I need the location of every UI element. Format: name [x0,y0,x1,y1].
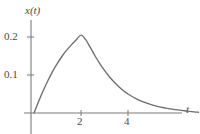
response-curve [34,35,199,113]
impulse-response-figure: x(t) t 0.2 0.1 2 4 [0,0,200,134]
y-tick-label-lower: 0.1 [4,69,18,80]
y-axis-title: x(t) [25,5,40,16]
x-axis-title: t [186,104,189,115]
plot-canvas [0,0,200,134]
x-tick-label-2: 2 [77,116,83,127]
y-tick-label-upper: 0.2 [4,31,18,42]
x-tick-label-4: 4 [124,116,130,127]
